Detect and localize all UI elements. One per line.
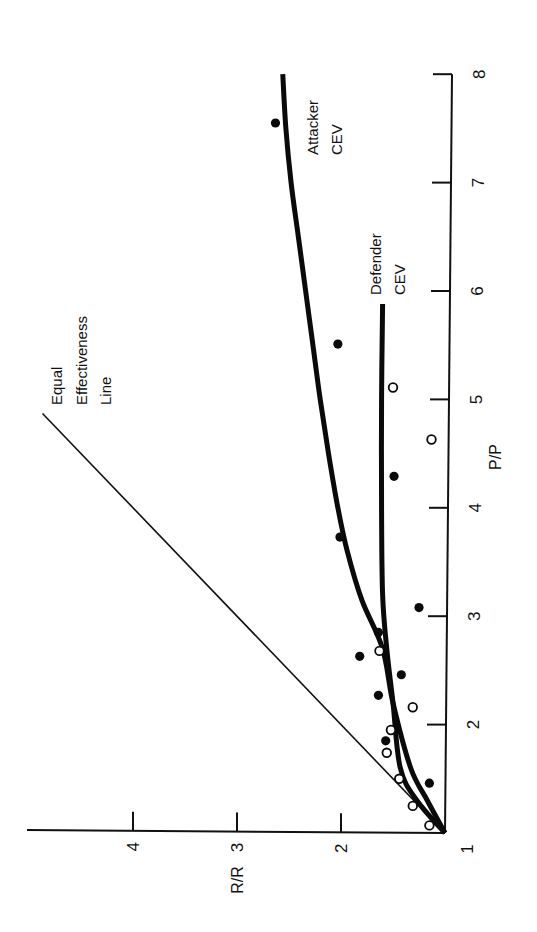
x-tick-label: 2 — [464, 720, 483, 729]
attacker-data-point — [381, 736, 390, 745]
attacker-data-point — [335, 532, 344, 541]
x-axis-title: P/P — [487, 444, 504, 470]
defender-data-point — [427, 435, 436, 444]
equal-line-label-2: Effectiveness — [73, 316, 90, 405]
defender-data-point — [387, 726, 396, 735]
x-tick-label: 5 — [467, 395, 486, 404]
defender-data-point — [389, 383, 398, 392]
x-tick-label: 4 — [466, 503, 485, 512]
x-tick-label: 8 — [470, 69, 489, 78]
attacker-data-point — [425, 779, 434, 788]
chart-labels: P/P R/R 1 Equal Effectiveness Line Attac… — [48, 69, 504, 893]
defender-data-point — [375, 647, 384, 656]
chart-lines — [43, 74, 445, 833]
attacker-data-point — [397, 670, 406, 679]
y-tick-label: 4 — [124, 842, 143, 851]
attacker-label-2: CEV — [328, 124, 345, 155]
cev-chart: P/P R/R 1 Equal Effectiveness Line Attac… — [0, 0, 537, 932]
defender-data-point — [395, 775, 404, 784]
defender-data-point — [408, 802, 417, 811]
equal-line-label-3: Line — [97, 377, 114, 405]
attacker-data-point — [389, 472, 398, 481]
attacker-data-point — [271, 118, 280, 127]
defender-data-point — [382, 748, 391, 757]
attacker-cev — [283, 74, 445, 833]
defender-label-2: CEV — [391, 264, 408, 295]
attacker-data-point — [414, 603, 423, 612]
axes — [27, 74, 452, 833]
attacker-data-point — [355, 652, 364, 661]
x-tick-label: 7 — [469, 178, 488, 187]
defender-data-point — [425, 821, 434, 830]
y-tick-label: 2 — [332, 844, 351, 853]
x-axis-line — [445, 74, 452, 833]
origin-label: 1 — [458, 844, 477, 853]
y-axis-title: R/R — [229, 866, 246, 894]
y-tick-label: 3 — [228, 843, 247, 852]
x-tick-label: 6 — [468, 286, 487, 295]
attacker-data-point — [333, 340, 342, 349]
defender-data-point — [408, 703, 417, 712]
attacker-data-point — [374, 691, 383, 700]
attacker-data-point — [374, 628, 383, 637]
x-tick-label: 3 — [465, 611, 484, 620]
equal-line-label-1: Equal — [48, 367, 65, 405]
defender-label-1: Defender — [367, 233, 384, 295]
attacker-label-1: Attacker — [304, 100, 321, 155]
